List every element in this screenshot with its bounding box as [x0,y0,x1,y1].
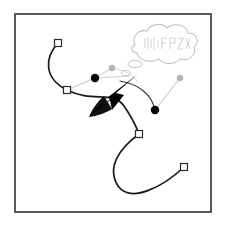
illustration-canvas [0,0,225,235]
anchor-point-mid-left[interactable] [64,87,71,94]
control-point-selected-right[interactable] [151,106,159,114]
anchor-point-bottom-right[interactable] [181,164,188,171]
control-point-unselected-far-right[interactable] [177,75,183,81]
control-point-selected-left[interactable] [91,74,99,82]
control-point-unselected-upper[interactable] [109,65,115,71]
illustration-figure: Bezier path editing illustration ∿∿∿∿∿ i… [0,0,225,235]
anchor-point-top-left[interactable] [55,40,62,47]
anchor-point-center[interactable] [136,131,143,138]
thought-bubble-tail-large [128,60,142,67]
